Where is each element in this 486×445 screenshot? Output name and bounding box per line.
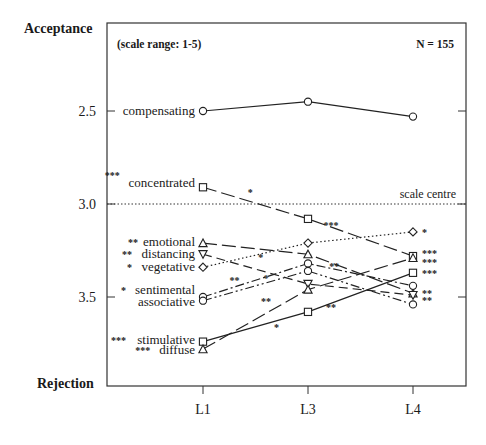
segment-annotation-concentrated: *	[248, 187, 253, 198]
x-tick-label: L4	[405, 402, 421, 417]
marker-vegetative-L1	[199, 263, 207, 271]
segment-annotation-stimulative: **	[326, 302, 336, 313]
sig-right-vegetative: *	[422, 227, 427, 238]
series-label-compensating: compensating	[123, 103, 196, 118]
sig-left-sentimental: *	[121, 285, 126, 296]
x-tick-label: L1	[195, 402, 211, 417]
y-label-top: Acceptance	[24, 21, 92, 36]
sig-left-diffuse: ***	[135, 345, 150, 356]
sig-left-distancing: **	[122, 249, 132, 260]
sig-left-emotional: **	[128, 237, 138, 248]
y-tick-label: 3.5	[79, 290, 97, 305]
marker-compensating-L1	[199, 107, 206, 114]
note-sample-size: N = 155	[416, 38, 454, 50]
sig-left-vegetative: *	[127, 262, 132, 273]
segment-annotation-emotional: **	[329, 261, 339, 272]
marker-associative-L4	[409, 301, 416, 308]
marker-sentimental-L3	[304, 260, 311, 267]
marker-vegetative-L3	[304, 239, 312, 247]
marker-vegetative-L4	[409, 228, 417, 236]
scale-centre-label: scale centre	[400, 187, 456, 201]
chart: Acceptance Rejection (scale range: 1-5) …	[0, 0, 486, 445]
marker-associative-L1	[199, 297, 206, 304]
marker-associative-L3	[304, 267, 311, 274]
sig-left-stimulative: ***	[111, 335, 126, 346]
marker-compensating-L4	[409, 113, 416, 120]
sig-left-concentrated: ***	[105, 170, 120, 181]
segment-annotation-sentimental: **	[230, 275, 240, 286]
marker-stimulative-L3	[304, 308, 311, 315]
series-label-associative: associative	[138, 294, 195, 309]
marker-concentrated-L3	[304, 215, 311, 222]
series-label-vegetative: vegetative	[142, 259, 196, 274]
marker-sentimental-L4	[409, 282, 416, 289]
series-label-concentrated: concentrated	[129, 175, 196, 190]
note-scale-range: (scale range: 1-5)	[117, 38, 201, 51]
marker-diffuse-L1	[199, 345, 207, 353]
series-label-diffuse: diffuse	[159, 342, 195, 357]
y-tick-label: 2.5	[79, 104, 97, 119]
segment-annotation-stimulative: *	[274, 322, 279, 333]
segment-annotation-concentrated: ***	[324, 220, 339, 231]
marker-concentrated-L1	[199, 184, 206, 191]
marker-compensating-L3	[304, 98, 311, 105]
y-label-bottom: Rejection	[37, 376, 94, 391]
sig-right-emotional: **	[422, 295, 432, 306]
sig-right-diffuse: ***	[422, 257, 437, 268]
segment-annotation-vegetative: *	[258, 252, 263, 263]
sig-right-stimulative: ***	[422, 268, 437, 279]
segment-annotation-diffuse: **	[261, 296, 271, 307]
segment-annotation-distancing: *	[264, 273, 269, 284]
y-tick-label: 3.0	[79, 197, 97, 212]
x-tick-label: L3	[300, 402, 316, 417]
marker-stimulative-L4	[409, 269, 416, 276]
